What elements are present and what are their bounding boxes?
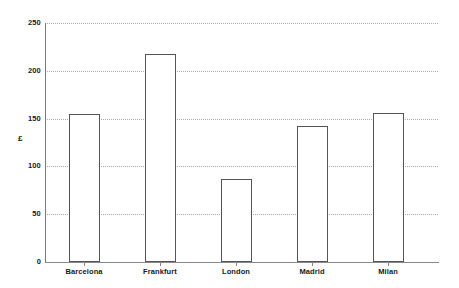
y-tick-250: 250 — [5, 19, 41, 27]
bar-london[interactable] — [221, 179, 252, 262]
x-tick-mark-london — [236, 262, 237, 266]
y-tick-150: 150 — [5, 115, 41, 123]
y-axis-title: £ — [18, 134, 22, 143]
bar-frankfurt[interactable] — [145, 54, 176, 262]
bar-chart: 250 200 150 100 50 0 £ Barcelona Frankfu… — [0, 0, 459, 288]
x-tick-mark-milan — [388, 262, 389, 266]
x-tick-mark-frankfurt — [160, 262, 161, 266]
bars-layer — [45, 23, 438, 262]
x-label-frankfurt: Frankfurt — [143, 267, 177, 276]
bar-milan[interactable] — [373, 113, 404, 262]
bar-madrid[interactable] — [297, 126, 328, 262]
x-tick-mark-barcelona — [84, 262, 85, 266]
x-tick-mark-madrid — [312, 262, 313, 266]
x-label-barcelona: Barcelona — [65, 267, 102, 276]
x-label-london: London — [222, 267, 250, 276]
x-axis-line — [45, 262, 439, 263]
x-label-milan: Milan — [378, 267, 398, 276]
y-tick-200: 200 — [5, 67, 41, 75]
y-tick-50: 50 — [5, 210, 41, 218]
bar-barcelona[interactable] — [69, 114, 100, 262]
y-tick-0: 0 — [5, 258, 41, 266]
x-label-madrid: Madrid — [299, 267, 324, 276]
y-tick-100: 100 — [5, 162, 41, 170]
